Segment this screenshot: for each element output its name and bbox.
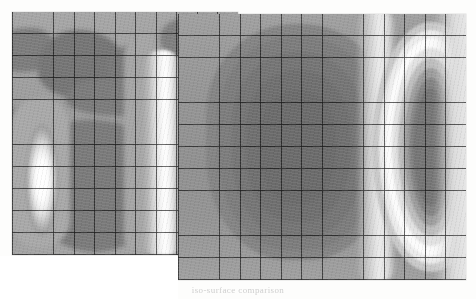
right-contour-panel[interactable] xyxy=(178,14,466,280)
left-bright-lobe xyxy=(24,120,60,240)
figure-caption: iso-surface comparison xyxy=(0,285,476,299)
figure-container: iso-surface comparison xyxy=(0,0,476,299)
left-bright-band xyxy=(142,50,182,255)
right-contour-field xyxy=(178,14,466,280)
right-edge-falloff xyxy=(178,14,466,280)
